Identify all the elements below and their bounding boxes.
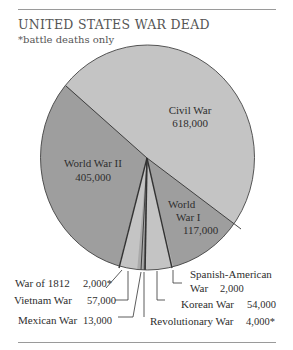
value-civil-war: 618,000 xyxy=(172,117,208,129)
value-vietnam-war: 57,000 xyxy=(87,295,116,306)
label-mexican-war: Mexican War xyxy=(18,314,77,326)
value-world-war-i: 117,000 xyxy=(183,224,219,236)
value-revolutionary-war: 4,000* xyxy=(246,316,275,327)
value-korean-war: 54,000 xyxy=(247,299,276,310)
label-world-war-i-line2: War I xyxy=(176,211,201,223)
label-war-of-1812: War of 1812 xyxy=(15,277,70,289)
label-spanish-american-line1: Spanish-American xyxy=(190,268,272,280)
value-mexican-war: 13,000 xyxy=(83,315,112,326)
value-world-war-ii: 405,000 xyxy=(75,171,111,183)
label-vietnam-war: Vietnam War xyxy=(14,294,72,306)
bottom-rule xyxy=(18,342,276,343)
label-revolutionary-war: Revolutionary War xyxy=(150,315,234,327)
pie-chart: Civil War 618,000 World War II 405,000 W… xyxy=(0,0,293,350)
label-korean-war: Korean War xyxy=(181,298,234,310)
value-spanish-american: 2,000 xyxy=(220,283,244,294)
label-civil-war: Civil War xyxy=(169,104,212,116)
label-spanish-american-line2: War xyxy=(190,282,208,294)
value-war-of-1812: 2,000* xyxy=(83,278,112,289)
label-world-war-i-line1: World xyxy=(168,198,196,210)
label-world-war-ii: World War II xyxy=(64,157,122,169)
